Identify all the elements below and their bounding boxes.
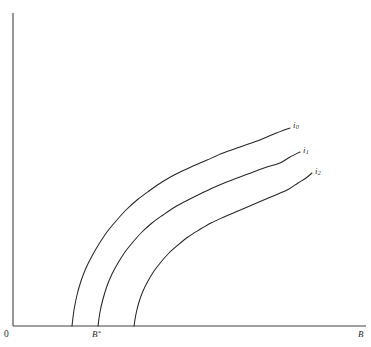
x-axis-label: B: [358, 330, 364, 339]
curve-label-i1: i1: [303, 146, 309, 155]
curves-group: [72, 128, 312, 326]
curve-i1: [98, 152, 300, 326]
origin-label: 0: [4, 330, 9, 340]
curve-label-i2: i2: [315, 167, 321, 176]
indifference-curve-figure: i0 i1 i2 0 B* B: [0, 0, 371, 347]
curve-label-i0: i0: [293, 121, 299, 130]
curve-i0: [72, 128, 290, 326]
curve-i2: [134, 173, 312, 326]
x-tick-label-b-star: B*: [92, 330, 101, 339]
axes-group: [13, 13, 366, 326]
